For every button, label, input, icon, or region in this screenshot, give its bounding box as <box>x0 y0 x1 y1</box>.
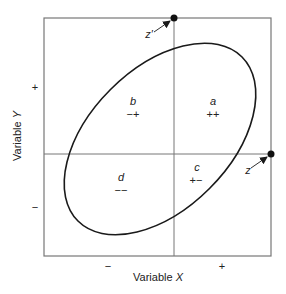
quadrant-c-signs: +− <box>190 175 203 186</box>
x-tick-negative: − <box>105 261 111 272</box>
y-tick-positive: + <box>32 82 38 93</box>
y-tick-negative: − <box>32 202 38 213</box>
x-tick-positive: + <box>219 261 225 272</box>
x-axis-title: Variable X <box>133 271 183 283</box>
y-axis-var: Y <box>11 111 23 118</box>
y-axis-label: Variable <box>11 121 23 161</box>
x-axis-label: Variable <box>133 271 173 283</box>
arrow-z <box>251 157 267 168</box>
point-label-z-prime: z′ <box>145 29 153 40</box>
quadrant-a-signs: ++ <box>207 109 220 120</box>
scatter-quadrant-diagram <box>0 0 286 294</box>
quadrant-b-label: b <box>130 96 136 107</box>
data-ellipse <box>28 7 286 270</box>
point-z <box>268 151 275 158</box>
quadrant-d-label: d <box>118 172 124 183</box>
quadrant-b-signs: −+ <box>127 109 140 120</box>
quadrant-d-signs: −− <box>115 185 128 196</box>
point-z-prime <box>171 15 178 22</box>
y-axis-title: Variable Y <box>11 111 23 161</box>
point-label-z: z <box>245 165 251 176</box>
x-axis-var: X <box>176 271 183 283</box>
quadrant-a-label: a <box>210 96 216 107</box>
quadrant-c-label: c <box>194 162 200 173</box>
arrow-z-prime <box>154 21 170 32</box>
